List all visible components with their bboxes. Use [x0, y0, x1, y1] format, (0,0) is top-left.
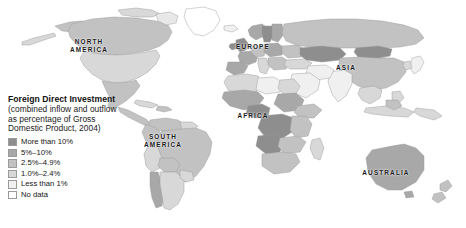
- country-libya: [256, 77, 282, 94]
- legend-label-1p0-2p4: 1.0%–2.4%: [21, 169, 60, 180]
- country-new-zealand: [440, 180, 452, 192]
- country-tasmania: [404, 191, 414, 198]
- country-hispaniola: [156, 106, 172, 112]
- country-iceland: [224, 25, 238, 32]
- legend-item-2p5-4p9: 2.5%–4.9%: [8, 158, 140, 169]
- country-canadian-arctic: [118, 8, 160, 17]
- legend-swatch-2p5-4p9: [8, 159, 17, 168]
- map-legend: Foreign Direct Investment (combined infl…: [8, 95, 140, 200]
- world-map-figure: NORTH AMERICA SOUTH AMERICA EUROPE AFRIC…: [0, 0, 466, 228]
- country-aleutians: [22, 33, 56, 45]
- legend-item-1p0-2p4: 1.0%–2.4%: [8, 169, 140, 180]
- country-united-kingdom: [236, 38, 248, 52]
- country-spain-portugal: [226, 62, 248, 75]
- country-new-guinea: [414, 108, 442, 120]
- country-ireland: [229, 43, 238, 50]
- country-new-zealand-south: [432, 192, 446, 203]
- legend-swatch-less-than-1: [8, 180, 17, 189]
- country-united-states: [80, 50, 160, 83]
- country-south-africa: [262, 152, 300, 174]
- legend-subtitle: (combined inflow and outflow as percenta…: [8, 105, 140, 134]
- legend-item-no-data: No data: [8, 190, 140, 201]
- legend-label-5-10: 5%–10%: [21, 148, 52, 159]
- legend-item-more-than-10: More than 10%: [8, 137, 140, 148]
- country-russia: [282, 19, 424, 48]
- legend-item-5-10: 5%–10%: [8, 148, 140, 159]
- country-east-africa: [290, 116, 312, 138]
- legend-item-less-than-1: Less than 1%: [8, 179, 140, 190]
- country-canada: [68, 17, 172, 55]
- country-poland-central: [264, 43, 284, 57]
- legend-label-more-than-10: More than 10%: [21, 137, 73, 148]
- country-japan: [410, 56, 424, 74]
- country-greenland: [184, 7, 220, 36]
- country-southeast-asia: [358, 86, 382, 104]
- country-australia: [366, 144, 424, 190]
- legend-swatch-1p0-2p4: [8, 170, 17, 179]
- country-zambia-zimbabwe: [278, 136, 306, 154]
- legend-swatch-more-than-10: [8, 138, 17, 147]
- legend-label-2p5-4p9: 2.5%–4.9%: [21, 158, 60, 169]
- country-madagascar: [310, 138, 324, 160]
- legend-label-no-data: No data: [21, 190, 48, 201]
- legend-swatch-no-data: [8, 191, 17, 200]
- legend-label-less-than-1: Less than 1%: [21, 179, 68, 190]
- legend-swatch-5-10: [8, 149, 17, 158]
- country-kazakhstan: [300, 46, 346, 62]
